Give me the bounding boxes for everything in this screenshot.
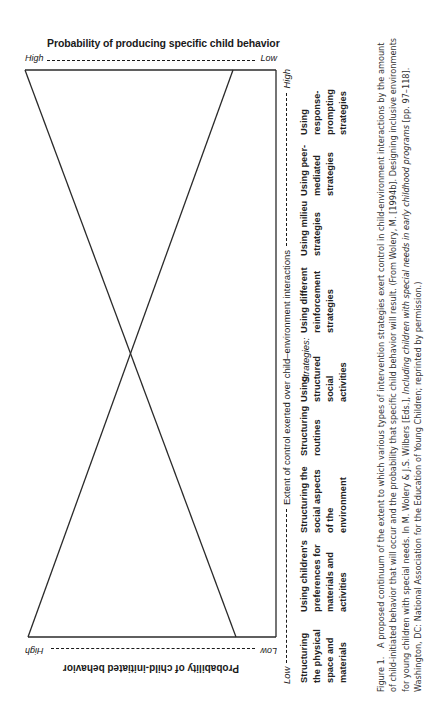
- strategy-line: reinforcement: [311, 267, 324, 333]
- top-axis: High Low: [25, 53, 277, 67]
- right-axis-dashed-line-high: [286, 93, 287, 246]
- bottom-axis-low-label: Low: [260, 646, 277, 656]
- continuum-diagram: [0, 0, 427, 703]
- strategy-line: strategies: [324, 267, 337, 333]
- strategy-line: of the: [324, 466, 337, 533]
- strategy-physical-space: Structuring the physical space and mater…: [298, 629, 350, 683]
- strategy-line: Using different: [298, 267, 311, 333]
- strategy-line: strategies: [337, 89, 350, 135]
- strategy-line: Using: [298, 89, 311, 135]
- strategy-line: Structuring: [298, 406, 311, 456]
- strategy-line: Using peer-: [298, 145, 311, 196]
- strategy-line: activities: [337, 540, 350, 612]
- right-axis-title: Extent of control exerted over child–env…: [281, 250, 292, 505]
- bottom-axis-title: Probability of child-initiated behavior: [25, 663, 277, 674]
- strategy-line: the physical: [311, 629, 324, 683]
- strategy-line: social aspects: [311, 466, 324, 533]
- strategy-line: mediated: [311, 145, 324, 196]
- bottom-axis-high-label: High: [25, 646, 44, 656]
- strategy-line: prompting: [324, 89, 337, 135]
- strategy-line: strategies: [324, 145, 337, 196]
- bottom-axis-scale: Low High: [25, 642, 277, 656]
- figure-caption: Figure 1. A proposed continuum of the ex…: [375, 37, 425, 692]
- strategy-routines: Structuring routines: [298, 406, 324, 456]
- strategy-line: strategies: [311, 201, 324, 256]
- strategy-milieu: Using milieu strategies: [298, 201, 324, 256]
- caption-book-title: Including children with special needs in…: [401, 125, 411, 394]
- strategy-line: social: [324, 356, 337, 402]
- strategy-line: activities: [337, 356, 350, 402]
- right-axis-dashed-line-low: [286, 509, 287, 662]
- strategy-line: environment: [337, 466, 350, 533]
- strategy-peer-mediated: Using peer- mediated strategies: [298, 145, 337, 196]
- bottom-axis: Probability of child-initiated behavior …: [25, 642, 277, 674]
- strategy-structured-social-activities: Using structured social activities: [298, 356, 350, 402]
- strategy-line: Structuring: [298, 629, 311, 683]
- strategy-line: preferences for: [311, 540, 324, 612]
- strategy-reinforcement: Using different reinforcement strategies: [298, 267, 337, 333]
- top-axis-title: Probability of producing specific child …: [47, 37, 280, 49]
- strategy-line: structured: [311, 356, 324, 402]
- strategy-response-prompting: Using response- prompting strategies: [298, 89, 350, 135]
- right-axis-low-label: Low: [281, 667, 292, 684]
- strategy-line: space and: [324, 629, 337, 683]
- strategy-childrens-preferences: Using children's preferences for materia…: [298, 540, 350, 612]
- strategy-line: materials: [337, 629, 350, 683]
- strategy-line: Structuring the: [298, 466, 311, 533]
- strategy-line: Using: [298, 356, 311, 402]
- top-axis-high-label: High: [25, 53, 44, 63]
- top-axis-dashed-line: [47, 60, 255, 61]
- strategy-line: Using children's: [298, 540, 311, 612]
- strategy-line: response-: [311, 89, 324, 135]
- top-axis-low-label: Low: [260, 53, 277, 63]
- bottom-axis-dashed-line: [51, 648, 255, 649]
- specific-behavior-line: [28, 70, 233, 637]
- strategy-line: routines: [311, 406, 324, 456]
- figure-number: Figure 1.: [376, 657, 386, 692]
- right-axis-high-label: High: [281, 69, 292, 89]
- strategy-social-aspects: Structuring the social aspects of the en…: [298, 466, 350, 533]
- strategy-line: Using milieu: [298, 201, 311, 256]
- strategy-line: materials and: [324, 540, 337, 612]
- right-axis: Low Extent of control exerted over child…: [281, 69, 295, 684]
